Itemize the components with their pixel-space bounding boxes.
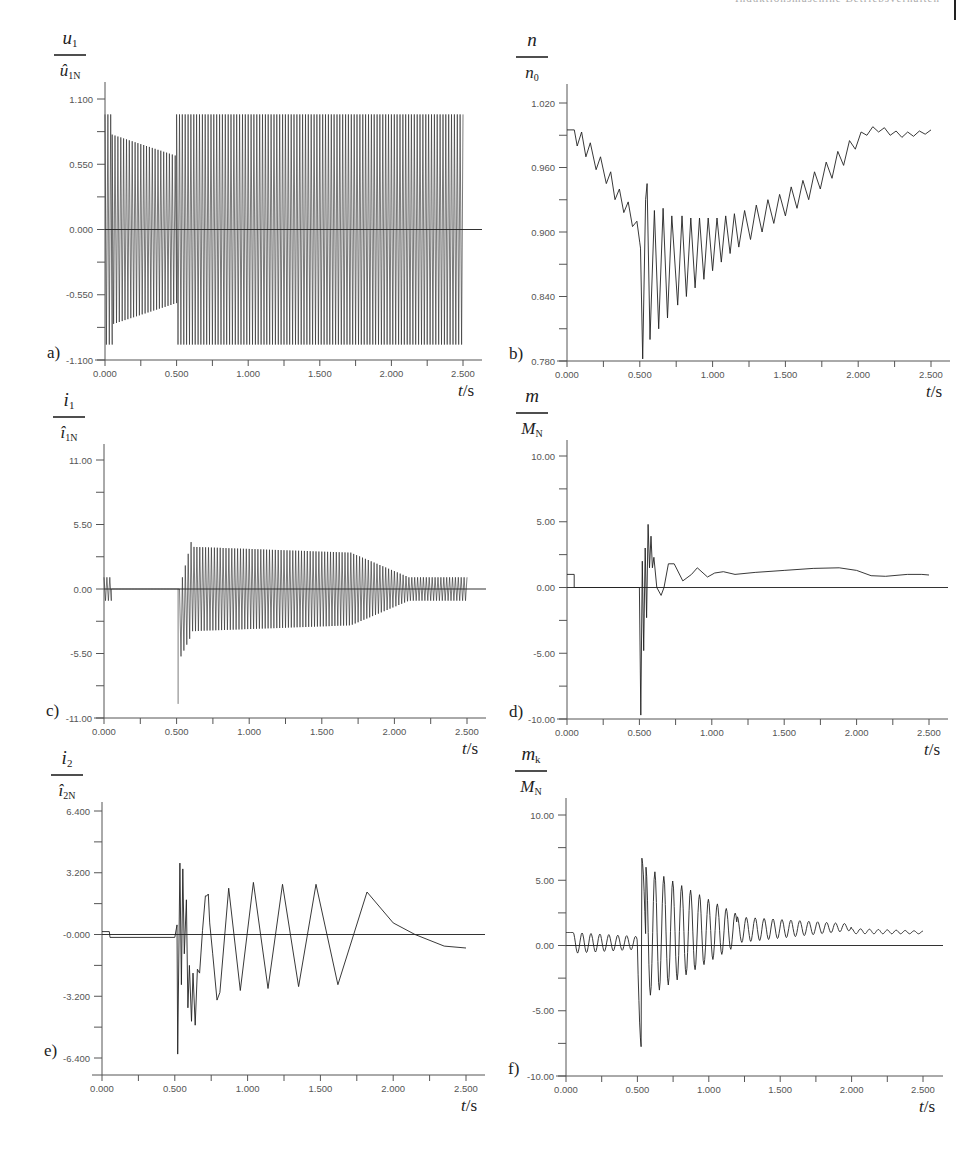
x-tick-label: 2.500 <box>917 727 941 738</box>
x-tick-label: 0.000 <box>555 369 579 380</box>
x-axis-label: t/s <box>461 1096 477 1115</box>
x-tick-label: 0.000 <box>555 727 579 738</box>
data-series <box>566 858 923 1046</box>
y-tick-label: -1.100 <box>66 355 93 366</box>
y-tick-label: 11.00 <box>69 455 92 466</box>
panel-f: 10.005.000.00-5.00-10.000.0000.5001.0001… <box>508 743 943 1116</box>
x-tick-label: 1.000 <box>701 369 725 380</box>
x-tick-label: 2.000 <box>381 1083 405 1094</box>
y-tick-label: 1.020 <box>531 98 555 109</box>
svg-text:î1N: î1N <box>61 423 78 443</box>
svg-text:m: m <box>525 385 539 406</box>
y-tick-label: 5.00 <box>537 516 556 527</box>
x-tick-label: 0.500 <box>165 726 189 737</box>
svg-text:i2: i2 <box>62 747 73 769</box>
data-series <box>567 127 931 359</box>
y-tick-label: 5.00 <box>536 875 555 886</box>
x-tick-label: 1.500 <box>774 369 798 380</box>
y-tick-label: -6.400 <box>63 1053 90 1064</box>
figure-panels: 1.1000.5500.000-0.550-1.1000.0000.5001.0… <box>0 0 979 1152</box>
svg-text:mk: mk <box>521 743 541 765</box>
x-tick-label: 1.500 <box>309 1083 333 1094</box>
x-tick-label: 1.500 <box>308 368 332 379</box>
svg-text:n: n <box>527 29 537 50</box>
x-tick-label: 1.500 <box>310 726 334 737</box>
x-tick-label: 0.500 <box>626 1084 650 1095</box>
panel-label: e) <box>44 1041 57 1060</box>
y-axis-label: i1î1N <box>53 389 85 443</box>
x-axis-label: t/s <box>924 740 940 759</box>
y-tick-label: -10.00 <box>528 714 555 725</box>
panel-label: f) <box>508 1059 519 1078</box>
data-series <box>104 542 467 704</box>
x-tick-label: 2.000 <box>380 368 404 379</box>
svg-text:n0: n0 <box>525 63 539 83</box>
panel-label: a) <box>47 343 60 362</box>
y-tick-label: -11.00 <box>66 713 92 724</box>
x-tick-label: 2.500 <box>919 369 943 380</box>
y-tick-label: 6.400 <box>66 806 90 817</box>
y-tick-label: 10.00 <box>530 810 554 821</box>
x-tick-label: 2.500 <box>911 1084 935 1095</box>
x-tick-label: 0.500 <box>628 727 652 738</box>
y-tick-label: -0.000 <box>63 929 90 940</box>
x-tick-label: 2.500 <box>455 726 479 737</box>
y-axis-label: nn0 <box>516 29 548 83</box>
panel-d: 10.005.000.00-5.00-10.000.0000.5001.0001… <box>509 385 948 759</box>
x-tick-label: 1.000 <box>700 727 724 738</box>
svg-text:MN: MN <box>519 777 541 797</box>
svg-text:u1: u1 <box>63 27 78 49</box>
x-tick-label: 1.500 <box>772 727 796 738</box>
y-tick-label: 0.00 <box>536 940 555 951</box>
svg-text:i1: i1 <box>64 389 75 411</box>
y-tick-label: 10.00 <box>531 451 555 462</box>
y-tick-label: 0.000 <box>69 224 93 235</box>
panel-e: 6.4003.200-0.000-3.200-6.4000.0000.5001.… <box>44 747 485 1115</box>
x-tick-label: 0.000 <box>554 1084 578 1095</box>
x-tick-label: 1.500 <box>768 1084 792 1095</box>
x-axis-label: t/s <box>462 739 478 758</box>
svg-text:û1N: û1N <box>60 61 81 81</box>
y-tick-label: -5.50 <box>70 648 92 659</box>
x-tick-label: 0.000 <box>93 368 117 379</box>
data-series <box>102 863 466 1054</box>
x-axis-label: t/s <box>926 382 942 401</box>
panel-a: 1.1000.5500.000-0.550-1.1000.0000.5001.0… <box>47 27 482 400</box>
y-axis-label: mkMN <box>515 743 547 797</box>
x-tick-label: 1.000 <box>237 726 261 737</box>
y-tick-label: 1.100 <box>69 94 93 105</box>
y-axis-label: mMN <box>516 385 548 439</box>
x-axis-label: t/s <box>919 1097 935 1116</box>
panel-c: 11.005.500.00-5.50-11.000.0000.5001.0001… <box>46 389 486 758</box>
panel-label: b) <box>509 344 523 363</box>
y-tick-label: -0.550 <box>66 289 93 300</box>
x-tick-label: 0.500 <box>163 1083 187 1094</box>
svg-text:MN: MN <box>520 419 542 439</box>
y-tick-label: -5.00 <box>533 648 555 659</box>
y-tick-label: 0.00 <box>537 582 556 593</box>
y-tick-label: 5.50 <box>74 519 93 530</box>
y-tick-label: 3.200 <box>66 867 90 878</box>
svg-text:î2N: î2N <box>59 781 76 801</box>
x-tick-label: 1.000 <box>236 1083 260 1094</box>
y-tick-label: -3.200 <box>63 991 90 1002</box>
x-tick-label: 2.000 <box>846 369 870 380</box>
x-tick-label: 0.500 <box>628 369 652 380</box>
y-tick-label: 0.840 <box>531 291 555 302</box>
y-tick-label: 0.960 <box>531 162 555 173</box>
x-tick-label: 0.000 <box>92 726 116 737</box>
y-axis-label: u1û1N <box>54 27 86 81</box>
panel-label: c) <box>46 701 59 720</box>
x-tick-label: 1.000 <box>697 1084 721 1095</box>
panel-b: 1.0200.9600.9000.8400.7800.0000.5001.000… <box>509 29 950 401</box>
x-tick-label: 1.000 <box>236 368 260 379</box>
x-tick-label: 2.000 <box>383 726 407 737</box>
y-tick-label: 0.900 <box>531 227 555 238</box>
x-tick-label: 2.000 <box>840 1084 864 1095</box>
panel-label: d) <box>509 702 523 721</box>
x-tick-label: 2.500 <box>454 1083 478 1094</box>
data-series <box>567 524 929 715</box>
y-tick-label: 0.00 <box>74 584 93 595</box>
x-tick-label: 2.500 <box>451 368 475 379</box>
y-axis-label: i2î2N <box>51 747 83 801</box>
